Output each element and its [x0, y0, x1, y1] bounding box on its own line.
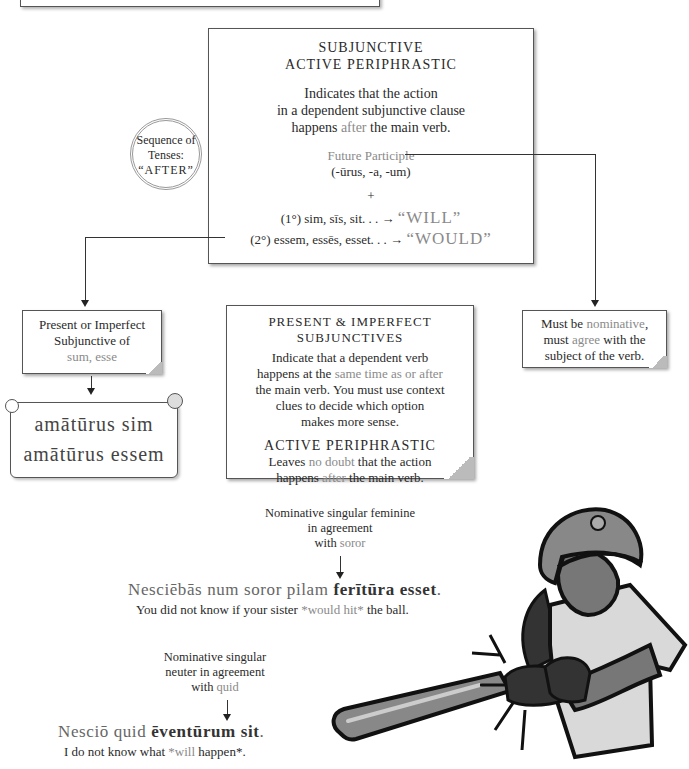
participle-endings: (-ūrus, -a, -um): [209, 164, 533, 180]
sequence-of-tenses-circle: Sequence of Tenses: “AFTER”: [130, 118, 202, 190]
connector-participle-v: [595, 154, 596, 302]
form-1: (1°) sim, sīs, sit. . . → “WILL”: [209, 208, 533, 229]
present-imperfect-sum-box: Present or Imperfect Subjunctive of sum,…: [22, 310, 162, 374]
main-desc-1: Indicates that the action: [209, 85, 533, 102]
example2-latin: Nesciō quid ēventūrum sit.: [58, 722, 264, 742]
main-desc-2: in a dependent subjunctive clause: [209, 102, 533, 119]
form-2: (2°) essem, essēs, esset. . . → “WOULD”: [209, 229, 533, 250]
scroll-curl-left-icon: [5, 399, 19, 413]
agreement-box: Must be nominative, must agree with the …: [522, 310, 667, 368]
page-curl-icon: [146, 362, 162, 374]
participle-label: Future Participle: [209, 148, 533, 164]
example2-english: I do not know what *will happen*.: [64, 744, 246, 760]
page-curl-icon: [444, 457, 474, 479]
active-periphrastic-box: SUBJUNCTIVE ACTIVE PERIPHRASTIC Indicate…: [208, 28, 534, 264]
example2-note: Nominative singular neuter in agreement …: [150, 650, 280, 695]
present-imperfect-subjunctives-box: PRESENT & IMPERFECT SUBJUNCTIVES Indicat…: [226, 305, 474, 479]
connector-form-v: [85, 237, 86, 302]
scroll-banner: amātūrus sim amātūrus essem: [10, 402, 178, 478]
arrow-down-icon: [223, 714, 231, 721]
page-curl-icon: [649, 356, 667, 368]
softball-batter-illustration: [300, 495, 689, 769]
arrow-down-icon: [81, 300, 89, 307]
arrow-down-icon: [591, 300, 599, 307]
arrow-down-icon: [87, 388, 95, 395]
plus-sign: +: [209, 188, 533, 204]
connector-participle-h: [405, 154, 595, 155]
main-title-1: SUBJUNCTIVE: [209, 39, 533, 56]
top-partial-box: [20, 0, 380, 7]
main-desc-3: happens after the main verb.: [209, 119, 533, 136]
scroll-curl-right-icon: [167, 393, 183, 409]
connector-form-h: [85, 237, 225, 238]
main-title-2: ACTIVE PERIPHRASTIC: [209, 56, 533, 73]
